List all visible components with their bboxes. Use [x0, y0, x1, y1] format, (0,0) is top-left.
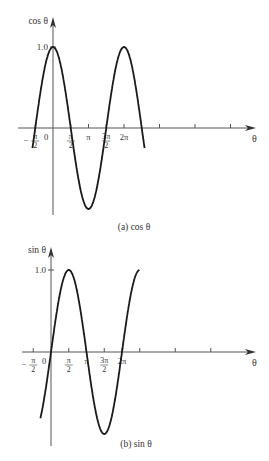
x-axis-label: θ: [252, 357, 257, 368]
x-tick-label-sign: −: [22, 359, 27, 369]
x-tick-label: 2π: [118, 356, 127, 366]
x-tick-label: 2π: [120, 132, 129, 142]
y-tick-label: 1.0: [37, 42, 49, 52]
cos-chart: θcos θ1.0−π20π2π3π22π(a) cos θ: [18, 16, 257, 233]
x-tick-label: 0: [42, 356, 46, 366]
x-tick-label-num: 3π: [100, 356, 108, 365]
y-tick-label: 1.0: [35, 265, 47, 275]
x-tick-label: π: [86, 132, 91, 142]
x-tick-label-den: 2: [102, 365, 106, 374]
y-axis-label: cos θ: [28, 16, 48, 26]
chart-caption: (a) cos θ: [118, 222, 151, 233]
x-tick-label: 0: [44, 132, 48, 142]
trig-charts: θcos θ1.0−π20π2π3π22π(a) cos θ θsin θ1.0…: [0, 0, 269, 461]
x-tick-label-den: 2: [67, 365, 71, 374]
x-axis-label: θ: [252, 133, 257, 144]
chart-caption: (b) sin θ: [120, 439, 152, 450]
x-tick-label-den: 2: [31, 365, 35, 374]
y-axis-label: sin θ: [28, 245, 46, 255]
x-tick-label-num: π: [31, 356, 35, 365]
x-tick-label-num: π: [67, 356, 71, 365]
x-tick-label-sign: −: [24, 135, 29, 145]
sin-chart: θsin θ1.0−π20π2π3π22π(b) sin θ: [22, 245, 257, 450]
